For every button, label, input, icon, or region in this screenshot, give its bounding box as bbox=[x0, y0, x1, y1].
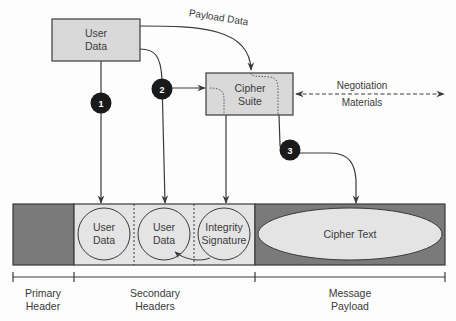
svg-text:User: User bbox=[153, 221, 176, 233]
badge-1: 1 bbox=[91, 93, 112, 114]
svg-text:Cipher Text: Cipher Text bbox=[324, 228, 377, 240]
svg-text:3: 3 bbox=[287, 146, 292, 156]
svg-text:Integrity: Integrity bbox=[205, 221, 243, 233]
user-data-box-line1: User bbox=[85, 27, 108, 39]
primary-header-label-line1: Primary bbox=[25, 287, 62, 299]
badge-3: 3 bbox=[280, 140, 301, 161]
svg-text:2: 2 bbox=[159, 85, 164, 95]
badge-2: 2 bbox=[152, 79, 173, 100]
secondary-cell-integrity-signature: Integrity Signature bbox=[198, 208, 250, 260]
cipher-suite-box: Cipher Suite bbox=[206, 73, 293, 115]
primary-header-block bbox=[13, 204, 74, 265]
arrow-2-down bbox=[140, 49, 165, 203]
user-data-box-line2: Data bbox=[85, 40, 107, 52]
cipher-suite-box-line1: Cipher bbox=[235, 82, 266, 94]
message-payload-label-line1: Message bbox=[329, 287, 372, 299]
primary-header-label-line2: Header bbox=[26, 300, 61, 312]
svg-text:User: User bbox=[93, 221, 116, 233]
secondary-headers-label-line1: Secondary bbox=[130, 287, 181, 299]
message-payload-label-line2: Payload bbox=[331, 300, 369, 312]
cipher-suite-box-line2: Suite bbox=[238, 95, 262, 107]
negotiation-label-line2: Materials bbox=[342, 97, 383, 108]
user-data-box: User Data bbox=[52, 19, 140, 61]
payload-data-label: Payload Data bbox=[188, 7, 249, 27]
negotiation-label-line1: Negotiation bbox=[337, 80, 388, 91]
secondary-headers-label-line2: Headers bbox=[135, 300, 175, 312]
message-structure-diagram: User Data Cipher Suite Payload Data Nego… bbox=[0, 0, 456, 321]
diagram-canvas: User Data Cipher Suite Payload Data Nego… bbox=[0, 0, 456, 321]
svg-text:Data: Data bbox=[153, 234, 175, 246]
svg-text:1: 1 bbox=[98, 99, 103, 109]
secondary-cell-user-data-1: User Data bbox=[78, 208, 130, 260]
cipher-text-ellipse: Cipher Text bbox=[258, 208, 442, 260]
section-bracket bbox=[13, 272, 445, 282]
payload-data-arrow bbox=[140, 26, 251, 70]
svg-text:Data: Data bbox=[93, 234, 115, 246]
message-bar: User Data User Data Integrity Signature … bbox=[13, 204, 445, 265]
secondary-cell-user-data-2: User Data bbox=[138, 208, 190, 260]
svg-text:Signature: Signature bbox=[202, 234, 247, 246]
